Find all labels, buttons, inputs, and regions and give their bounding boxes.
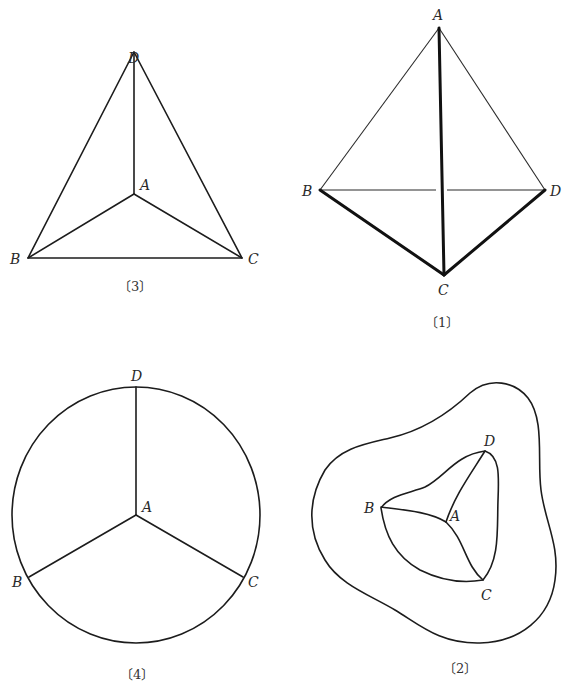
label-c: C <box>481 587 492 603</box>
edge-ad <box>439 28 545 190</box>
label-d: D <box>549 183 561 199</box>
figure-caption: 〔3〕 <box>118 279 152 294</box>
figure-caption: 〔1〕 <box>425 315 459 330</box>
figure-2: D A B C 〔2〕 <box>312 383 556 676</box>
figure-caption: 〔2〕 <box>443 661 477 676</box>
outer-curve <box>312 383 556 643</box>
label-a: A <box>448 508 460 524</box>
edge-ac <box>439 28 444 275</box>
edge-ab <box>381 507 446 522</box>
label-a: A <box>140 499 152 515</box>
edge-bc <box>320 190 444 275</box>
edge-ab <box>320 28 439 190</box>
figure-4: D A B C 〔4〕 <box>11 368 260 682</box>
label-b: B <box>301 183 312 199</box>
figure-caption: 〔4〕 <box>120 667 154 682</box>
radius-ab <box>29 515 136 577</box>
label-b: B <box>9 251 20 267</box>
triangle-bcd <box>28 52 242 258</box>
label-d: D <box>130 368 142 384</box>
label-b: B <box>11 574 22 590</box>
diagram-canvas: D A B C 〔3〕 A B D C 〔1〕 D A B C 〔4〕 <box>0 0 562 696</box>
label-a: A <box>138 177 150 193</box>
label-a: A <box>431 7 443 23</box>
label-c: C <box>248 251 259 267</box>
label-c: C <box>248 574 259 590</box>
label-c: C <box>438 282 449 298</box>
radius-ac <box>136 515 243 577</box>
inner-curved-triangle <box>381 451 499 582</box>
label-d: D <box>127 50 139 66</box>
label-b: B <box>363 500 374 516</box>
edge-ac <box>446 522 483 580</box>
figure-1: A B D C 〔1〕 <box>301 7 561 330</box>
figure-3: D A B C 〔3〕 <box>9 50 259 294</box>
label-d: D <box>483 433 495 449</box>
edge-cd <box>444 190 545 275</box>
